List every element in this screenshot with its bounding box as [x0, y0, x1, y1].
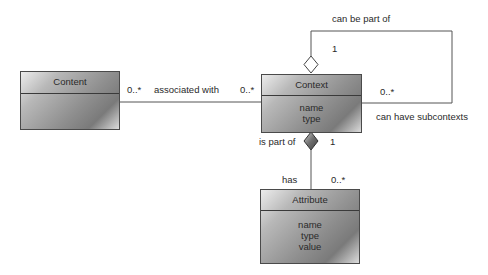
mult-context-end: 0..* [240, 84, 254, 95]
class-attribute-attributes: name type value [261, 211, 359, 252]
attr-type: type [261, 230, 359, 241]
self-mult-part: 0..* [380, 86, 394, 97]
aggregation-diamond-icon [304, 56, 318, 73]
connector-lines [0, 0, 488, 275]
self-label-bottom: can have subcontexts [376, 111, 468, 122]
class-context[interactable]: Context name type [261, 74, 362, 133]
class-context-attributes: name type [262, 96, 361, 124]
attr-name: name [262, 102, 361, 113]
composition-label-part: has [282, 174, 297, 185]
self-label-top: can be part of [332, 13, 390, 24]
class-attribute[interactable]: Attribute name type value [260, 189, 360, 264]
attr-value: value [261, 241, 359, 252]
composition-diamond-icon [304, 132, 318, 150]
mult-content-end: 0..* [127, 84, 141, 95]
class-content[interactable]: Content [20, 71, 120, 130]
composition-mult-whole: 1 [330, 136, 335, 147]
attr-type: type [262, 113, 361, 124]
class-context-name: Context [262, 75, 361, 96]
attr-name: name [261, 219, 359, 230]
self-mult-whole: 1 [332, 43, 337, 54]
association-label: associated with [154, 84, 219, 95]
class-attribute-name: Attribute [261, 190, 359, 211]
composition-mult-part: 0..* [331, 174, 345, 185]
class-content-attributes [21, 94, 119, 99]
composition-label-whole: is part of [259, 136, 295, 147]
class-content-name: Content [21, 72, 119, 94]
